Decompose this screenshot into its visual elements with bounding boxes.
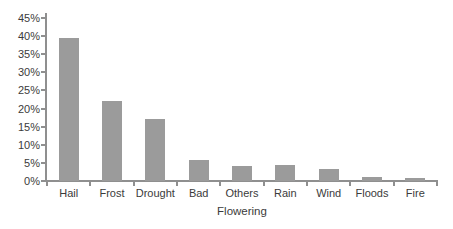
x-axis-tick bbox=[176, 182, 178, 186]
y-axis-tick-label: 30% bbox=[4, 66, 40, 78]
x-axis-tick bbox=[219, 182, 221, 186]
y-axis-tick bbox=[41, 126, 46, 128]
y-axis-tick bbox=[41, 89, 46, 91]
bar-others bbox=[232, 166, 252, 181]
y-axis-tick-label: 0% bbox=[4, 175, 40, 187]
x-axis-tick bbox=[436, 182, 438, 186]
y-axis-tick-label: 20% bbox=[4, 103, 40, 115]
y-axis-tick-label: 40% bbox=[4, 30, 40, 42]
category-label-hail: Hail bbox=[47, 187, 90, 199]
bar-rain bbox=[275, 165, 295, 181]
bar-drought bbox=[145, 119, 165, 181]
y-axis-tick bbox=[41, 108, 46, 110]
y-axis-line bbox=[45, 13, 47, 182]
y-axis-tick bbox=[41, 162, 46, 164]
bar-chart: 0%5%10%15%20%25%30%35%40%45%HailFrostDro… bbox=[0, 0, 453, 229]
x-axis-tick bbox=[349, 182, 351, 186]
y-axis-tick-label: 25% bbox=[4, 84, 40, 96]
category-label-drought: Drought bbox=[134, 187, 177, 199]
y-axis-tick-label: 10% bbox=[4, 139, 40, 151]
category-label-floods: Floods bbox=[350, 187, 393, 199]
bar-hail bbox=[59, 38, 79, 181]
x-axis-tick bbox=[46, 182, 48, 186]
y-axis-tick bbox=[41, 35, 46, 37]
bar-fire bbox=[405, 178, 425, 181]
category-label-wind: Wind bbox=[307, 187, 350, 199]
category-label-frost: Frost bbox=[90, 187, 133, 199]
y-axis-tick-label: 15% bbox=[4, 121, 40, 133]
y-axis-tick bbox=[41, 17, 46, 19]
y-axis-tick bbox=[41, 71, 46, 73]
x-axis-tick bbox=[393, 182, 395, 186]
category-label-others: Others bbox=[220, 187, 263, 199]
bar-floods bbox=[362, 177, 382, 181]
x-axis-title: Flowering bbox=[47, 205, 437, 217]
bar-frost bbox=[102, 101, 122, 181]
category-label-rain: Rain bbox=[264, 187, 307, 199]
plot-area: 0%5%10%15%20%25%30%35%40%45%HailFrostDro… bbox=[0, 0, 453, 229]
y-axis-tick-label: 5% bbox=[4, 157, 40, 169]
bar-wind bbox=[319, 169, 339, 181]
bar-bad bbox=[189, 160, 209, 181]
x-axis-tick bbox=[306, 182, 308, 186]
x-axis-tick bbox=[263, 182, 265, 186]
x-axis-tick bbox=[89, 182, 91, 186]
category-label-fire: Fire bbox=[394, 187, 437, 199]
y-axis-tick bbox=[41, 53, 46, 55]
x-axis-tick bbox=[133, 182, 135, 186]
y-axis-tick bbox=[41, 144, 46, 146]
category-label-bad: Bad bbox=[177, 187, 220, 199]
y-axis-tick-label: 35% bbox=[4, 48, 40, 60]
y-axis-tick-label: 45% bbox=[4, 12, 40, 24]
